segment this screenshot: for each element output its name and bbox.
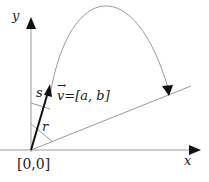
x-axis bbox=[0, 145, 201, 155]
r-label: r bbox=[42, 120, 48, 133]
origin-label: [0,0] bbox=[17, 157, 50, 171]
rotation-curve bbox=[50, 6, 168, 95]
vector-arrowhead-icon bbox=[44, 84, 52, 97]
y-axis-label: y bbox=[12, 9, 19, 22]
vector-projection-diagram: y x [0,0] s r → v=[a, b] bbox=[0, 0, 209, 182]
vector-label: v=[a, b] bbox=[57, 89, 110, 102]
y-axis-arrow-icon bbox=[26, 17, 36, 29]
x-axis-label: x bbox=[184, 154, 191, 167]
s-projection-tick bbox=[31, 103, 50, 109]
s-label: s bbox=[36, 86, 43, 99]
direction-line bbox=[31, 86, 191, 150]
y-axis bbox=[26, 17, 36, 152]
